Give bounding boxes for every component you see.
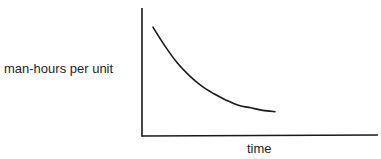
x-axis (141, 135, 378, 136)
chart-plot-area (0, 0, 381, 159)
x-axis-label: time (247, 141, 272, 157)
learning-curve-chart: man-hours per unit time (0, 0, 381, 159)
decay-curve (153, 27, 275, 112)
y-axis-label: man-hours per unit (4, 61, 113, 77)
